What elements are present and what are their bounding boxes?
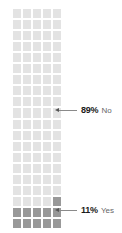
waffle-cell-no — [32, 152, 42, 163]
waffle-cell-no — [52, 52, 62, 63]
callout-yes-label: Yes — [101, 206, 114, 215]
waffle-cell-no — [32, 107, 42, 118]
waffle-cell-no — [52, 185, 62, 196]
waffle-cell-no — [42, 52, 52, 63]
waffle-chart: 89% No 11% Yes — [0, 0, 122, 233]
waffle-cell-no — [42, 19, 52, 30]
callout-yes-percent: 11% — [81, 205, 98, 215]
waffle-cell-no — [42, 130, 52, 141]
waffle-cell-no — [22, 185, 32, 196]
waffle-cell-no — [42, 85, 52, 96]
waffle-cell-no — [22, 52, 32, 63]
waffle-cell-no — [52, 74, 62, 85]
callout-no-percent: 89% — [81, 105, 98, 115]
waffle-cell-no — [12, 96, 22, 107]
waffle-cell-yes — [12, 218, 22, 229]
waffle-cell-no — [42, 163, 52, 174]
waffle-cell-no — [42, 152, 52, 163]
waffle-cell-no — [32, 63, 42, 74]
waffle-cell-no — [42, 8, 52, 19]
waffle-cell-no — [22, 19, 32, 30]
waffle-cell-no — [42, 107, 52, 118]
waffle-cell-no — [32, 74, 42, 85]
waffle-cell-no — [52, 163, 62, 174]
waffle-cell-no — [32, 41, 42, 52]
waffle-cell-no — [22, 196, 32, 207]
waffle-cell-no — [42, 30, 52, 41]
waffle-cell-no — [22, 119, 32, 130]
callout-no: 89% No — [55, 104, 112, 116]
waffle-cell-no — [12, 163, 22, 174]
waffle-cell-no — [12, 30, 22, 41]
waffle-cell-no — [12, 41, 22, 52]
waffle-cell-no — [12, 8, 22, 19]
waffle-cell-no — [22, 8, 32, 19]
waffle-grid — [12, 8, 62, 229]
waffle-cell-no — [12, 19, 22, 30]
waffle-cell-no — [42, 63, 52, 74]
waffle-cell-no — [32, 130, 42, 141]
waffle-cell-no — [32, 163, 42, 174]
waffle-cell-no — [32, 185, 42, 196]
waffle-cell-no — [12, 52, 22, 63]
waffle-cell-no — [52, 141, 62, 152]
waffle-cell-no — [22, 63, 32, 74]
waffle-cell-no — [52, 130, 62, 141]
waffle-cell-yes — [12, 207, 22, 218]
waffle-cell-no — [12, 196, 22, 207]
waffle-cell-no — [22, 74, 32, 85]
waffle-cell-no — [32, 119, 42, 130]
waffle-cell-no — [22, 152, 32, 163]
waffle-cell-no — [32, 141, 42, 152]
waffle-cell-no — [12, 130, 22, 141]
waffle-cell-no — [42, 41, 52, 52]
waffle-cell-no — [52, 174, 62, 185]
waffle-cell-no — [12, 174, 22, 185]
waffle-cell-yes — [42, 218, 52, 229]
waffle-cell-no — [22, 174, 32, 185]
waffle-cell-no — [12, 185, 22, 196]
waffle-cell-yes — [42, 207, 52, 218]
waffle-cell-no — [12, 74, 22, 85]
waffle-cell-no — [32, 30, 42, 41]
waffle-cell-no — [32, 196, 42, 207]
waffle-cell-no — [32, 8, 42, 19]
waffle-cell-yes — [32, 218, 42, 229]
waffle-cell-no — [42, 196, 52, 207]
waffle-cell-no — [22, 163, 32, 174]
waffle-cell-no — [52, 8, 62, 19]
waffle-cell-no — [22, 41, 32, 52]
waffle-cell-no — [12, 152, 22, 163]
waffle-cell-no — [42, 174, 52, 185]
waffle-cell-no — [42, 141, 52, 152]
waffle-cell-no — [52, 41, 62, 52]
waffle-cell-yes — [22, 218, 32, 229]
waffle-cell-no — [22, 141, 32, 152]
waffle-cell-no — [52, 19, 62, 30]
waffle-cell-no — [52, 63, 62, 74]
waffle-cell-no — [52, 85, 62, 96]
waffle-cell-no — [22, 130, 32, 141]
waffle-cell-yes — [22, 207, 32, 218]
waffle-cell-no — [32, 96, 42, 107]
waffle-cell-no — [22, 107, 32, 118]
waffle-cell-no — [52, 119, 62, 130]
waffle-cell-no — [22, 85, 32, 96]
waffle-cell-no — [32, 19, 42, 30]
waffle-cell-no — [32, 85, 42, 96]
waffle-cell-no — [12, 85, 22, 96]
waffle-cell-no — [12, 107, 22, 118]
waffle-cell-no — [22, 96, 32, 107]
waffle-cell-no — [42, 185, 52, 196]
waffle-cell-no — [12, 63, 22, 74]
waffle-cell-no — [42, 74, 52, 85]
callout-yes: 11% Yes — [55, 204, 114, 216]
waffle-cell-yes — [32, 207, 42, 218]
waffle-cell-no — [42, 96, 52, 107]
waffle-cell-no — [32, 174, 42, 185]
waffle-cell-no — [32, 52, 42, 63]
leader-line — [59, 110, 77, 111]
waffle-cell-no — [52, 152, 62, 163]
callout-no-label: No — [101, 106, 111, 115]
waffle-cell-no — [52, 30, 62, 41]
